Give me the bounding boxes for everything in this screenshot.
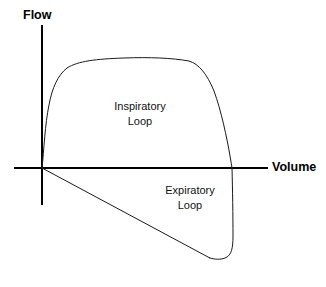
flow-volume-diagram bbox=[0, 0, 326, 287]
inspiratory-loop-label: Inspiratory Loop bbox=[90, 99, 190, 129]
inspiratory-loop-label-line2: Loop bbox=[90, 114, 190, 129]
flow-axis-label: Flow bbox=[23, 9, 51, 22]
flow-volume-loop-figure: Flow Volume Inspiratory Loop Expiratory … bbox=[0, 0, 326, 287]
expiratory-loop-label-line1: Expiratory bbox=[140, 183, 240, 198]
inspiratory-loop-label-line1: Inspiratory bbox=[90, 99, 190, 114]
volume-axis-label: Volume bbox=[272, 161, 316, 174]
expiratory-loop-label-line2: Loop bbox=[140, 198, 240, 213]
expiratory-loop-return-line bbox=[42, 168, 210, 258]
expiratory-loop-descent bbox=[210, 168, 234, 259]
expiratory-loop-label: Expiratory Loop bbox=[140, 183, 240, 213]
